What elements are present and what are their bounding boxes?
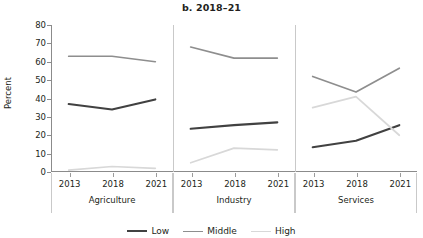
line-chart: b. 2018–21 Percent 01020304050607080 201… (0, 0, 423, 238)
panel-separator (295, 25, 296, 172)
y-tick-mark (47, 117, 51, 118)
legend-swatch-icon (251, 231, 271, 232)
series-line-low (69, 99, 156, 109)
y-tick-mark (47, 99, 51, 100)
series-line-low (191, 122, 278, 128)
legend-item-high[interactable]: High (251, 226, 296, 236)
y-tick-mark (47, 80, 51, 81)
y-tick-label: 30 (20, 113, 46, 121)
plot-area (51, 25, 417, 172)
x-tick-mark (314, 173, 315, 177)
x-tick-label: 2018 (340, 179, 374, 189)
y-tick-mark (47, 43, 51, 44)
series-line-middle (69, 56, 156, 62)
x-tick-label: 2018 (218, 179, 252, 189)
y-tick-label: 50 (20, 76, 46, 84)
y-axis-line (51, 25, 52, 172)
x-tick-mark (357, 173, 358, 177)
x-axis-group-industry: 201320182021Industry (173, 173, 295, 213)
y-tick-mark (47, 154, 51, 155)
y-tick-label: 70 (20, 39, 46, 47)
y-tick-mark (47, 62, 51, 63)
legend-label: Middle (207, 226, 237, 236)
x-axis-group-services: 201320182021Services (295, 173, 417, 213)
x-axis-group-label: Services (296, 195, 416, 205)
series-line-low (313, 125, 400, 147)
series-line-high (191, 148, 278, 163)
x-axis-group-label: Industry (174, 195, 294, 205)
y-tick-mark (47, 25, 51, 26)
x-tick-label: 2021 (383, 179, 417, 189)
x-axis-group-agriculture: 201320182021Agriculture (51, 173, 173, 213)
x-tick-mark (235, 173, 236, 177)
x-tick-label: 2013 (175, 179, 209, 189)
y-axis-tick-labels: 01020304050607080 (20, 0, 46, 238)
x-tick-mark (192, 173, 193, 177)
x-axis-line (51, 171, 417, 172)
series-line-high (69, 166, 156, 170)
x-tick-label: 2021 (139, 179, 173, 189)
legend-swatch-icon (127, 230, 147, 232)
x-tick-mark (278, 173, 279, 177)
legend-item-middle[interactable]: Middle (183, 226, 237, 236)
chart-legend: LowMiddleHigh (0, 226, 423, 236)
x-tick-mark (400, 173, 401, 177)
legend-label: High (275, 226, 296, 236)
series-line-middle (191, 47, 278, 58)
legend-item-low[interactable]: Low (127, 226, 169, 236)
y-tick-label: 60 (20, 58, 46, 66)
y-tick-label: 40 (20, 95, 46, 103)
chart-title: b. 2018–21 (0, 2, 423, 13)
x-tick-mark (156, 173, 157, 177)
x-tick-label: 2021 (261, 179, 295, 189)
panel-separator (173, 25, 174, 172)
series-line-middle (313, 68, 400, 92)
legend-label: Low (151, 226, 169, 236)
y-tick-label: 10 (20, 150, 46, 158)
x-axis-group-label: Agriculture (52, 195, 172, 205)
x-tick-label: 2013 (53, 179, 87, 189)
x-tick-mark (70, 173, 71, 177)
y-tick-label: 0 (20, 168, 46, 176)
y-axis-label: Percent (3, 61, 13, 125)
y-tick-mark (47, 135, 51, 136)
y-tick-label: 20 (20, 131, 46, 139)
y-tick-label: 80 (20, 21, 46, 29)
legend-swatch-icon (183, 231, 203, 232)
x-tick-label: 2018 (96, 179, 130, 189)
series-lines (51, 25, 417, 172)
x-tick-label: 2013 (297, 179, 331, 189)
x-tick-mark (113, 173, 114, 177)
